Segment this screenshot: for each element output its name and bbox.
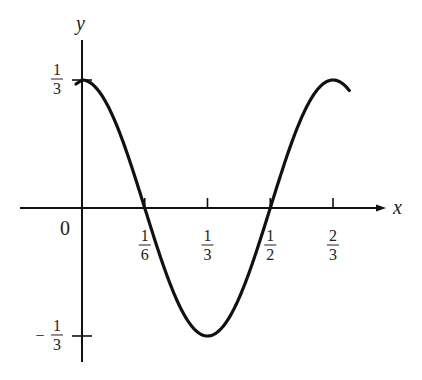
fraction-denominator: 2 bbox=[266, 246, 274, 263]
x-tick-label: 16 bbox=[139, 227, 151, 263]
fraction-denominator: 3 bbox=[329, 246, 337, 263]
y-tick-label: 13− bbox=[35, 317, 63, 353]
minus-sign: − bbox=[35, 327, 44, 344]
tick-labels: xy0161312231313− bbox=[35, 12, 402, 353]
fraction-denominator: 6 bbox=[141, 246, 149, 263]
axes bbox=[20, 40, 386, 362]
fraction-numerator: 1 bbox=[266, 227, 274, 244]
fraction-numerator: 1 bbox=[53, 317, 61, 334]
fraction-numerator: 1 bbox=[141, 227, 149, 244]
fraction-numerator: 1 bbox=[53, 61, 61, 78]
origin-label: 0 bbox=[60, 217, 70, 239]
fraction-numerator: 1 bbox=[203, 227, 211, 244]
x-tick-label: 12 bbox=[264, 227, 276, 263]
x-axis-label: x bbox=[392, 196, 402, 218]
fraction-denominator: 3 bbox=[53, 336, 61, 353]
fraction-numerator: 2 bbox=[329, 227, 337, 244]
fraction-denominator: 3 bbox=[53, 80, 61, 97]
y-tick-label: 13 bbox=[51, 61, 63, 97]
x-tick-label: 13 bbox=[201, 227, 213, 263]
x-axis-arrow-icon bbox=[376, 205, 386, 212]
cosine-plot: xy0161312231313− bbox=[0, 0, 422, 380]
y-axis-label: y bbox=[74, 12, 85, 35]
fraction-denominator: 3 bbox=[203, 246, 211, 263]
x-tick-label: 23 bbox=[327, 227, 339, 263]
